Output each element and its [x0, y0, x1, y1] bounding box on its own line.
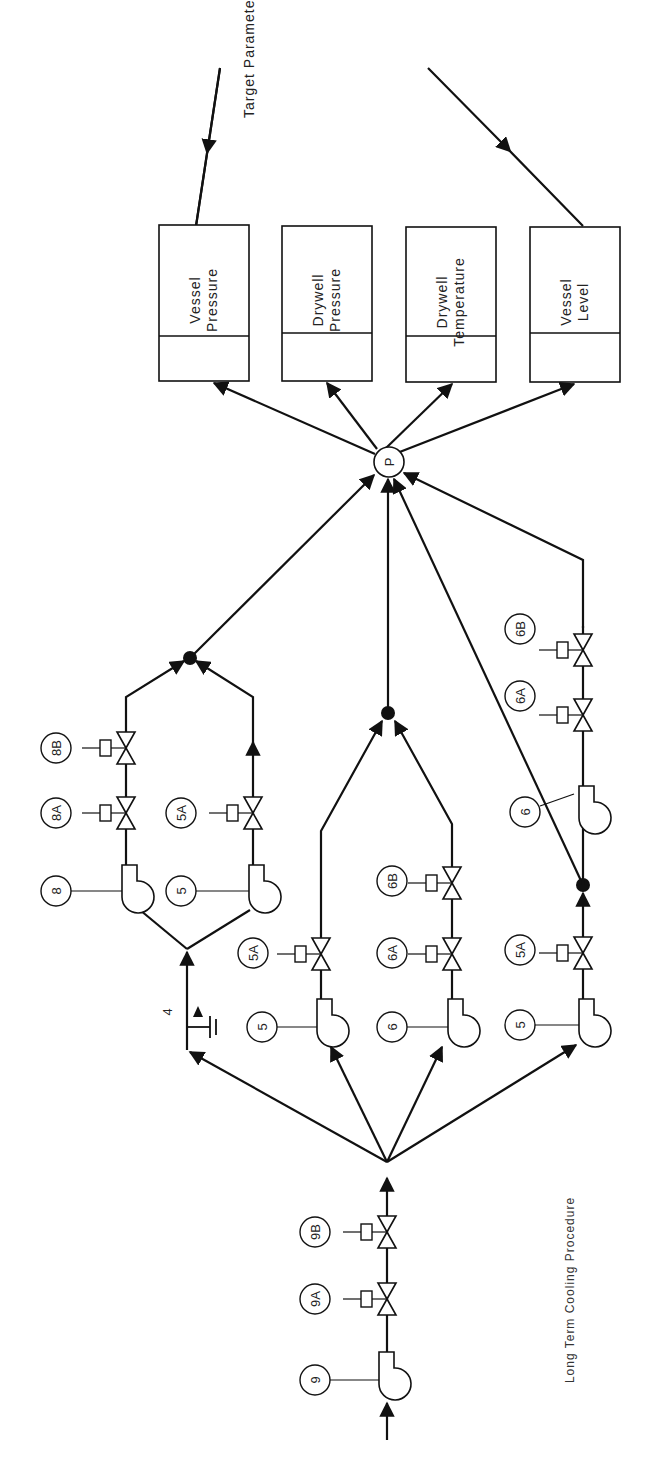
svg-text:VesselPressure: VesselPressure — [187, 268, 220, 332]
valve-8b-label: 8B — [49, 740, 64, 756]
valve-9a-label: 9A — [308, 1291, 323, 1307]
target-parameter-label: Target Parameter — [241, 0, 257, 118]
pump-5-label: 5 — [255, 1023, 270, 1030]
svg-text:VesselLevel: VesselLevel — [558, 278, 591, 325]
middle-merge-node — [381, 706, 395, 720]
supply-trunk: 9 9A 9B — [300, 1178, 411, 1440]
distribution-lines — [190, 1045, 576, 1162]
valve-5a-label: 5A — [174, 805, 189, 821]
top-merge-node — [183, 651, 197, 665]
pump-6-label: 6 — [518, 808, 533, 815]
hub-to-parameter-arrows — [214, 383, 574, 455]
target-parameter-feedback: Target Parameter — [196, 0, 583, 226]
parameter-box-vessel-pressure[interactable]: VesselPressure — [159, 225, 249, 381]
pump-8-label: 8 — [49, 887, 64, 894]
pump-5-label: 5 — [174, 887, 189, 894]
top-branch: 4 8 8A 8B 5 5A — [41, 651, 281, 1050]
p-hub: P — [374, 447, 404, 477]
valve-9b-label: 9B — [308, 1224, 323, 1240]
parameter-box-drywell-temperature[interactable]: DrywellTemperature — [406, 227, 496, 382]
pump-9-label: 9 — [308, 1376, 323, 1383]
parameter-box-vessel-level[interactable]: VesselLevel — [530, 227, 620, 382]
valve-6a-label: 6A — [385, 945, 400, 961]
diagram-caption: Long Term Cooling Procedure — [563, 1197, 577, 1383]
pump-5-label: 5 — [513, 1021, 528, 1028]
parameter-line2: Pressure — [204, 268, 220, 332]
valve-6a-label: 6A — [513, 688, 528, 704]
cooling-flow-diagram: Target Parameter VesselPressure DrywellP… — [0, 0, 648, 1477]
parameter-line1: Vessel — [187, 276, 203, 323]
valve-8a-label: 8A — [49, 805, 64, 821]
valve-6b-label: 6B — [513, 621, 528, 637]
valve-5a-label: 5A — [513, 942, 528, 958]
valve-5a-label: 5A — [246, 945, 261, 961]
svg-text:DrywellPressure: DrywellPressure — [310, 268, 343, 332]
check-valve-label: 4 — [160, 1008, 175, 1015]
parameter-box-drywell-pressure[interactable]: DrywellPressure — [282, 226, 372, 381]
middle-branch: 5 5A 6 6A 6B — [238, 706, 480, 1047]
pump-6-label: 6 — [385, 1023, 400, 1030]
valve-6b-label: 6B — [385, 873, 400, 889]
p-hub-label: P — [382, 458, 397, 467]
